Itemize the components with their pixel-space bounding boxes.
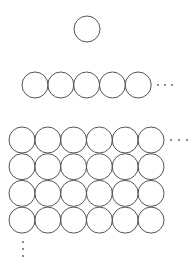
grid-circle [35, 180, 61, 206]
ellipsis-dot [164, 84, 166, 86]
circle [125, 72, 151, 98]
grid-circle [112, 207, 138, 233]
grid-circle [61, 180, 87, 206]
circle [99, 72, 125, 98]
row-of-circles [22, 72, 151, 98]
ellipsis-dot [171, 84, 173, 86]
grid-circle [138, 207, 164, 233]
grid-circle [35, 154, 61, 180]
grid-circle [9, 180, 35, 206]
grid-circle [86, 127, 112, 153]
grid-circle [9, 127, 35, 153]
grid-circle [35, 207, 61, 233]
grid-circle [61, 207, 87, 233]
grid-circle [112, 154, 138, 180]
grid-of-circles [9, 127, 164, 233]
ellipsis-dot [22, 255, 24, 257]
circle-arrangement-diagram [0, 0, 196, 267]
grid-circle [61, 154, 87, 180]
grid-circle [138, 180, 164, 206]
circle [74, 72, 100, 98]
single-circle [74, 16, 100, 42]
grid-circle [138, 127, 164, 153]
grid-circle [112, 127, 138, 153]
ellipsis-dot [22, 248, 24, 250]
grid-vertical-ellipsis [22, 241, 24, 257]
grid-circle [61, 127, 87, 153]
grid-circle [138, 154, 164, 180]
circle [48, 72, 74, 98]
ellipsis-dot [186, 139, 188, 141]
ellipsis-dot [157, 84, 159, 86]
grid-circle [86, 180, 112, 206]
circle [22, 72, 48, 98]
grid-circle [9, 154, 35, 180]
grid-horizontal-ellipsis [170, 139, 188, 141]
ellipsis-dot [170, 139, 172, 141]
row-ellipsis [157, 84, 173, 86]
ellipsis-dot [22, 241, 24, 243]
ellipsis-dot [178, 139, 180, 141]
grid-circle [112, 180, 138, 206]
grid-circle [35, 127, 61, 153]
grid-circle [9, 207, 35, 233]
grid-circle [86, 207, 112, 233]
circle [74, 16, 100, 42]
grid-circle [86, 154, 112, 180]
